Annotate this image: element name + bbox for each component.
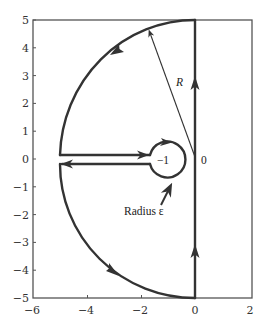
origin-label: 0 <box>201 154 207 166</box>
y-tick-label: 5 <box>22 14 29 27</box>
lower-large-arc <box>60 164 195 298</box>
y-tick-label: 0 <box>22 153 29 166</box>
radius-epsilon-pointer <box>161 189 169 205</box>
radius-r-line <box>150 33 195 157</box>
y-tick-label: 3 <box>22 70 29 83</box>
plot-frame <box>33 20 252 298</box>
upper-large-arc <box>60 20 195 155</box>
contour-diagram: 5 4 3 2 1 0 −1 −2 −3 −4 −5 −6 −4 −2 0 2 <box>0 0 265 333</box>
x-axis-labels: −6 −4 −2 0 2 <box>24 304 254 317</box>
x-tick-label: −6 <box>24 304 40 317</box>
point-minus-one-label: −1 <box>157 154 169 166</box>
y-tick-label: 4 <box>22 42 29 55</box>
radius-r-label: R <box>175 76 183 88</box>
radius-epsilon-label: Radius ε <box>124 205 164 217</box>
y-tick-label: −3 <box>13 236 29 249</box>
x-tick-label: 0 <box>192 304 199 317</box>
y-tick-label: 1 <box>22 125 29 138</box>
y-tick-label: −1 <box>13 181 29 194</box>
x-tick-label: −4 <box>78 304 94 317</box>
y-axis-labels: 5 4 3 2 1 0 −1 −2 −3 −4 −5 <box>13 14 29 305</box>
x-tick-label: −2 <box>132 304 148 317</box>
y-tick-label: −4 <box>13 264 29 277</box>
contour-path <box>60 20 195 298</box>
y-tick-label: −2 <box>13 209 29 222</box>
x-tick-label: 2 <box>247 304 254 317</box>
y-tick-label: 2 <box>22 97 29 110</box>
